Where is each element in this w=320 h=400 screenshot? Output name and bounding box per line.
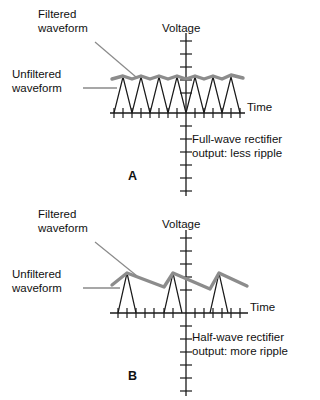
panel-letter-b: B bbox=[128, 370, 137, 384]
leader-line-filtered-a bbox=[95, 42, 136, 77]
leader-line-filtered-b bbox=[95, 242, 137, 276]
label-unfiltered-waveform-a: Unfiltered waveform bbox=[12, 68, 62, 95]
label-unfiltered-waveform-b: Unfiltered waveform bbox=[12, 268, 62, 295]
label-time-axis-b: Time bbox=[250, 301, 275, 315]
unfiltered-pulse-b-3 bbox=[210, 273, 228, 313]
panel-letter-a: A bbox=[128, 170, 137, 184]
unfiltered-waveform-a bbox=[114, 77, 240, 113]
filtered-waveform-b bbox=[112, 273, 247, 289]
unfiltered-pulse-b-2 bbox=[164, 273, 182, 313]
label-voltage-axis-a: Voltage bbox=[162, 22, 200, 36]
label-filtered-waveform-b: Filtered waveform bbox=[38, 208, 88, 235]
label-voltage-axis-b: Voltage bbox=[162, 218, 200, 232]
panel-half-wave: Filtered waveform Unfiltered waveform Vo… bbox=[0, 200, 320, 400]
panel-full-wave: Filtered waveform Unfiltered waveform Vo… bbox=[0, 0, 320, 200]
label-filtered-waveform-a: Filtered waveform bbox=[38, 8, 88, 35]
label-time-axis-a: Time bbox=[247, 101, 272, 115]
caption-full-wave: Full-wave rectifier output: less ripple bbox=[192, 133, 282, 160]
caption-half-wave: Half-wave rectifier output: more ripple bbox=[192, 331, 288, 358]
